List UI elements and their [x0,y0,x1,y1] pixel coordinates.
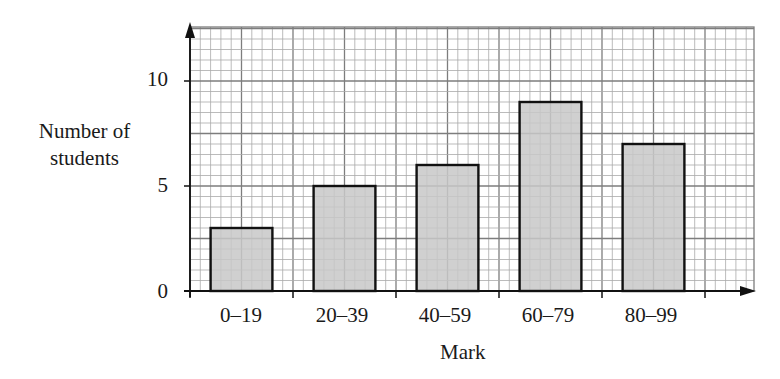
y-tick-0: 0 [128,279,168,304]
bar-0–19 [211,228,273,291]
x-tick-80-99: 80–99 [601,303,701,328]
x-tick-40-59: 40–59 [395,303,495,328]
x-tick-20-39: 20–39 [292,303,392,328]
x-axis-title: Mark [440,340,486,365]
y-axis-title: Number of students [22,118,147,172]
bar-60–79 [520,102,582,291]
x-tick-60-79: 60–79 [498,303,598,328]
bar-20–39 [314,186,376,291]
bar-40–59 [417,165,479,291]
y-tick-5: 5 [128,173,168,198]
bar-80–99 [623,144,685,291]
x-tick-0-19: 0–19 [191,303,291,328]
y-tick-10: 10 [128,67,168,92]
